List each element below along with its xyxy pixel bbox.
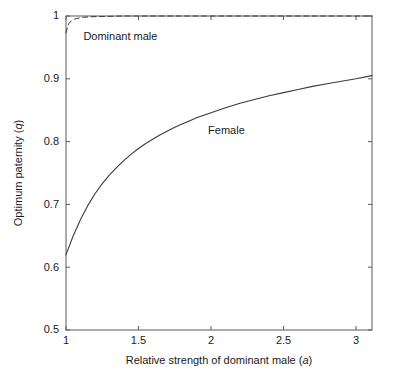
y-tick-label: 0.5 (44, 323, 59, 335)
x-tick-label: 2.5 (276, 334, 291, 346)
y-tick-label: 0.6 (44, 261, 59, 273)
x-axis-title: Relative strength of dominant male (a) (126, 354, 313, 366)
x-tick-label: 3 (353, 334, 359, 346)
series-line-female (66, 76, 372, 255)
y-axis-title: Optimum paternity (q) (12, 120, 24, 226)
y-axis-ticks: 0.50.60.70.80.91 (44, 9, 372, 335)
y-tick-label: 0.7 (44, 198, 59, 210)
optimum-paternity-chart: 0.50.60.70.80.91 11.522.53 Dominant male… (0, 0, 394, 382)
series-label-dominant-male: Dominant male (83, 30, 157, 42)
y-tick-label: 0.8 (44, 135, 59, 147)
x-tick-label: 1 (63, 334, 69, 346)
x-axis-ticks: 11.522.53 (63, 16, 359, 346)
series-label-female: Female (208, 124, 245, 136)
x-tick-label: 1.5 (131, 334, 146, 346)
x-tick-label: 2 (208, 334, 214, 346)
figure-container: 0.50.60.70.80.91 11.522.53 Dominant male… (0, 0, 394, 382)
y-tick-label: 1 (53, 9, 59, 21)
series-annotations: Dominant maleFemale (83, 30, 244, 136)
y-tick-label: 0.9 (44, 72, 59, 84)
